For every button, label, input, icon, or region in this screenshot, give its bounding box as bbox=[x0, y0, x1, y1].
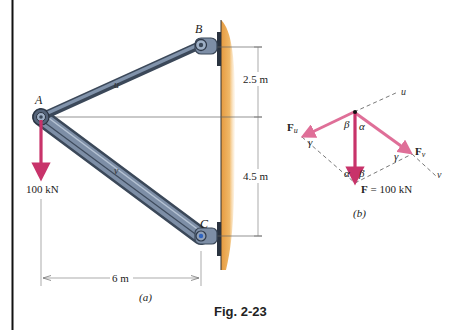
figure-canvas: A B C u v 100 kN 6 m (a) 2.5 m 4.5 m u v bbox=[0, 0, 463, 330]
member-ab bbox=[41, 44, 200, 117]
member-ac bbox=[41, 116, 201, 236]
v-axis-label: v bbox=[437, 169, 442, 180]
f-label: F = 100 kN bbox=[361, 183, 412, 195]
fu-label: Fu bbox=[287, 121, 298, 135]
part-b-label: (b) bbox=[353, 207, 366, 220]
structure-diagram-a: A B C u v 100 kN 6 m (a) 2.5 m 4.5 m bbox=[26, 20, 274, 304]
angle-gamma-left: γ bbox=[308, 136, 313, 148]
force-parallelogram-b: u v Fu Fv F = 100 kN β α γ γ α β (b) bbox=[287, 86, 442, 220]
point-a-label: A bbox=[34, 93, 43, 107]
fv-label: Fv bbox=[415, 145, 426, 159]
figure-caption: Fig. 2-23 bbox=[214, 304, 267, 319]
support-plate-c bbox=[217, 222, 221, 256]
point-c-label: C bbox=[200, 217, 209, 231]
wall bbox=[221, 20, 235, 270]
u-axis bbox=[354, 92, 398, 112]
member-u-label: u bbox=[114, 79, 119, 90]
dim-4-5m-label: 4.5 m bbox=[243, 170, 269, 182]
support-plate-b bbox=[217, 32, 221, 66]
load-label: 100 kN bbox=[26, 183, 59, 195]
part-a-label: (a) bbox=[139, 291, 152, 304]
member-v-label: v bbox=[114, 165, 119, 176]
dim-6m-label: 6 m bbox=[112, 272, 129, 284]
angle-alpha-top: α bbox=[359, 120, 365, 132]
angle-gamma-right: γ bbox=[394, 150, 399, 162]
angle-beta-top: β bbox=[343, 118, 350, 130]
origin-dot bbox=[353, 110, 357, 114]
angle-alpha-bottom: α bbox=[344, 167, 350, 179]
angle-beta-bottom: β bbox=[358, 167, 365, 179]
dim-2-5m-label: 2.5 m bbox=[243, 73, 269, 85]
u-axis-label: u bbox=[401, 86, 406, 97]
point-b-label: B bbox=[195, 22, 203, 36]
pin-b bbox=[195, 38, 217, 54]
